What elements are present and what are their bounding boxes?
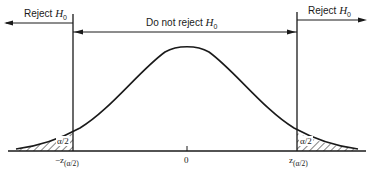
left-reject-label: Reject H0 — [24, 7, 67, 21]
right-tail-alpha-label: α/2 — [299, 136, 313, 146]
center-value-label: 0 — [184, 155, 189, 165]
accept-region-label: Do not reject H0 — [146, 16, 217, 30]
right-reject-label: Reject H0 — [308, 4, 351, 18]
accept-left-arrow-icon — [74, 30, 83, 35]
left-tail-alpha-label: α/2 — [56, 136, 70, 146]
accept-right-arrow-icon — [287, 30, 296, 35]
left-reject-arrow-icon — [4, 21, 13, 26]
left-critical-value-label: −z(α/2) — [55, 155, 79, 168]
right-reject-arrow-icon — [358, 18, 367, 23]
bell-curve — [16, 47, 358, 149]
right-critical-value-label: z(α/2) — [289, 155, 308, 168]
